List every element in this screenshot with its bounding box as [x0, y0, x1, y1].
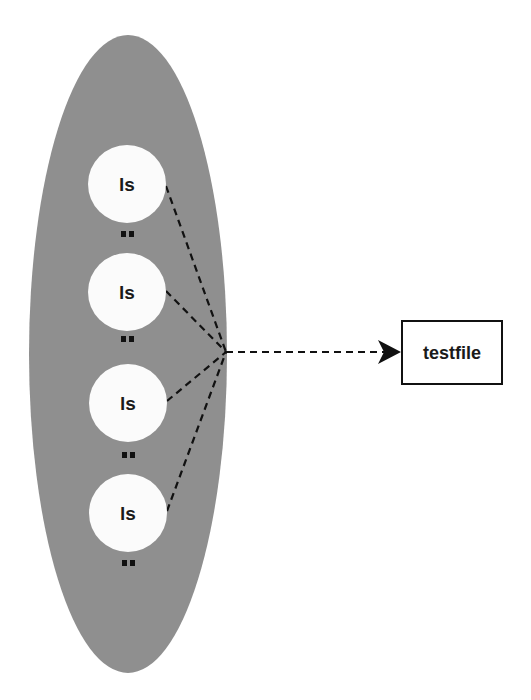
- continuation-dot: [122, 560, 127, 566]
- process-redirection-diagram: ls ls ls ls testfile: [0, 0, 531, 700]
- arrowhead-icon: [378, 340, 401, 364]
- continuation-dot: [122, 452, 127, 458]
- process-label: ls: [120, 393, 136, 414]
- continuation-dot: [130, 452, 135, 458]
- target-file-node: testfile: [402, 321, 502, 384]
- process-label: ls: [119, 174, 135, 195]
- shell-container-ellipse: [29, 35, 227, 673]
- continuation-dot: [121, 231, 126, 237]
- continuation-dot: [129, 336, 134, 342]
- continuation-dot: [130, 560, 135, 566]
- target-file-label: testfile: [423, 343, 481, 363]
- continuation-dot: [129, 231, 134, 237]
- continuation-dot: [121, 336, 126, 342]
- process-label: ls: [120, 503, 136, 524]
- process-label: ls: [119, 282, 135, 303]
